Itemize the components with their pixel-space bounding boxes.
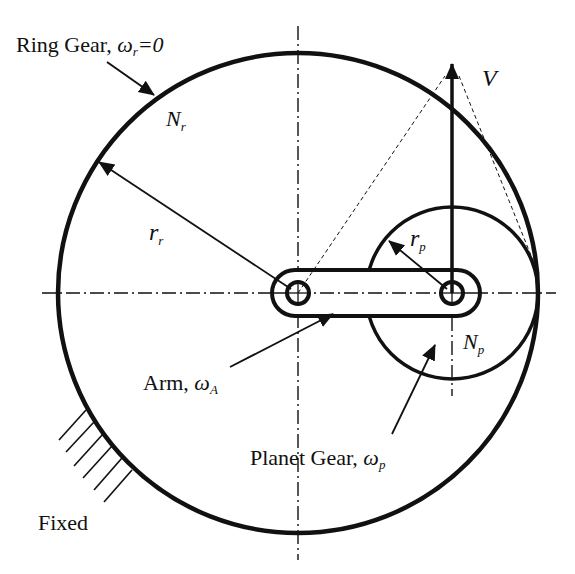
arm-label: Arm, ωA (143, 370, 218, 397)
planet-gear-label: Planet Gear, ωp (250, 445, 386, 472)
ring-radius-label: rr (149, 219, 164, 248)
planet-radius-label: rp (410, 225, 426, 254)
planetary-gear-diagram: Ring Gear, ωr=0 Nr rr rp V Np Arm, ωA Pl… (0, 0, 575, 574)
velocity-triangle (298, 76, 536, 293)
fixed-label: Fixed (38, 510, 88, 535)
ring-radius-arrow (99, 162, 291, 289)
ring-gear-label: Ring Gear, ωr=0 (16, 32, 164, 59)
ring-gear-leader-arrow (107, 62, 154, 95)
ring-teeth-label: Nr (165, 106, 187, 134)
planet-teeth-label: Np (462, 329, 485, 357)
arm-leader-arrow (230, 314, 333, 367)
velocity-label: V (482, 65, 499, 91)
